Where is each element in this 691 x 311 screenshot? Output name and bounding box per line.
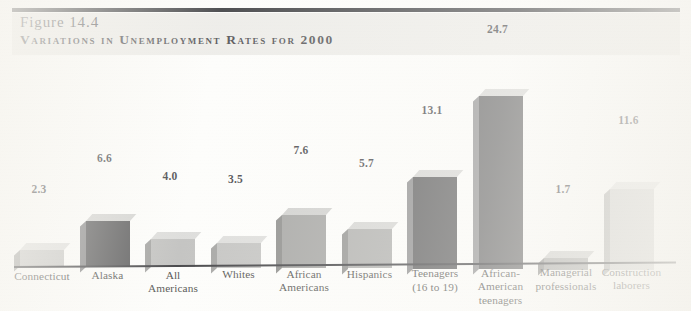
bar-value-label: 4.0 bbox=[135, 170, 205, 182]
bar[interactable] bbox=[479, 96, 523, 269]
header-rule bbox=[12, 8, 680, 12]
bar[interactable] bbox=[413, 177, 457, 269]
bar-front-face bbox=[20, 250, 64, 266]
category-label-line: teenagers bbox=[458, 294, 544, 308]
bar-front-face bbox=[479, 96, 523, 269]
bar-value-label: 3.5 bbox=[201, 173, 271, 185]
category-label: Constructionlaborers bbox=[589, 266, 675, 293]
bar-top-face bbox=[151, 232, 201, 239]
category-label-line: Construction bbox=[589, 266, 675, 280]
bar[interactable] bbox=[151, 239, 195, 267]
bar[interactable] bbox=[610, 189, 654, 270]
bar-value-label: 7.6 bbox=[266, 144, 336, 156]
bar-value-label: 13.1 bbox=[397, 104, 467, 116]
bar-chart-plot-area: 2.36.64.03.57.65.713.124.71.711.6 Connec… bbox=[0, 58, 691, 311]
bar-value-label: 1.7 bbox=[528, 183, 598, 195]
bar[interactable] bbox=[20, 250, 64, 266]
bar-value-label: 6.6 bbox=[70, 152, 140, 164]
figure-header: Figure 14.4 Variations in Unemployment R… bbox=[0, 8, 691, 56]
bar-top-face bbox=[544, 251, 594, 258]
bar-top-face bbox=[348, 222, 398, 229]
bar-front-face bbox=[413, 177, 457, 269]
bar-top-face bbox=[610, 182, 660, 189]
category-label-line: Americans bbox=[261, 281, 347, 295]
bar-front-face bbox=[86, 221, 130, 267]
category-label-line: laborers bbox=[589, 279, 675, 293]
bar-value-label: 5.7 bbox=[332, 157, 402, 169]
bar-top-face bbox=[479, 89, 529, 96]
bar[interactable] bbox=[348, 229, 392, 269]
bar-front-face bbox=[348, 229, 392, 269]
bar-value-label: 2.3 bbox=[4, 183, 74, 195]
bar-top-face bbox=[20, 243, 70, 250]
bar-top-face bbox=[217, 236, 267, 243]
bar-front-face bbox=[610, 189, 654, 270]
bar-front-face bbox=[151, 239, 195, 267]
bar[interactable] bbox=[282, 215, 326, 268]
bar[interactable] bbox=[86, 221, 130, 267]
bar-top-face bbox=[86, 214, 136, 221]
bar-top-face bbox=[413, 170, 463, 177]
bar-front-face bbox=[282, 215, 326, 268]
bar-top-face bbox=[282, 208, 332, 215]
category-label-line: Americans bbox=[130, 282, 216, 296]
figure-page: Figure 14.4 Variations in Unemployment R… bbox=[0, 0, 691, 311]
bar-value-label: 11.6 bbox=[594, 114, 664, 126]
bar-value-label: 24.7 bbox=[463, 23, 533, 35]
